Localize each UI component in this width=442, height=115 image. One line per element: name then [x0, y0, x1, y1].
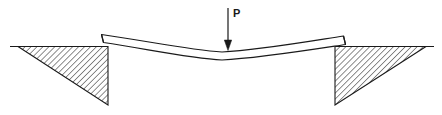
load-label-p: P — [233, 7, 240, 19]
load-arrow-head — [224, 40, 231, 51]
beam-deflection-figure: P — [0, 0, 442, 115]
left-support-group — [10, 47, 108, 106]
deflected-beam-body — [102, 35, 346, 61]
right-support-group — [335, 47, 434, 106]
deflected-beam-group — [102, 35, 346, 61]
figure-canvas: P — [0, 0, 442, 115]
point-load-arrow — [224, 8, 231, 51]
